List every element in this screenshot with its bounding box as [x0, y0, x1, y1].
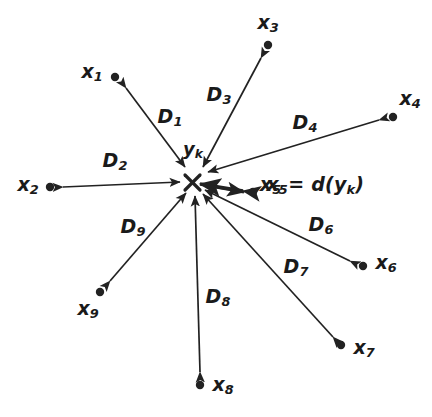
vector-line-d2	[63, 182, 180, 187]
vector-line-d3	[203, 58, 261, 167]
data-point-x8	[196, 381, 204, 389]
point-label-x4: x4	[399, 89, 420, 111]
data-point-x9	[96, 288, 104, 296]
vector-label-d6: D6	[309, 215, 334, 237]
data-point-x7	[337, 341, 345, 349]
centroid-label-yk: yk	[183, 140, 203, 160]
vector-diagram-figure: x1x2x3x4x5x6x7x8x9D1D2D3D4D6D7D8D9ykx5 =…	[0, 0, 432, 417]
data-point-x1	[111, 73, 119, 81]
point-label-x9: x9	[77, 299, 98, 321]
vector-label-d3: D3	[207, 85, 232, 107]
point-label-x6: x6	[375, 253, 396, 275]
point-label-x7: x7	[353, 338, 374, 360]
vector-label-d8: D8	[206, 287, 231, 309]
vector-label-d1: D1	[158, 107, 183, 129]
data-point-x5	[249, 188, 257, 196]
data-point-x2	[46, 183, 54, 191]
vector-label-d7: D7	[284, 257, 309, 279]
point-label-x1: x1	[81, 62, 102, 84]
data-point-x6	[359, 262, 367, 270]
point-label-x3: x3	[257, 13, 278, 35]
data-point-x3	[264, 41, 272, 49]
equation-x5-equals-d-yk: x5 = d(yk)	[260, 175, 364, 197]
data-point-x4	[389, 113, 397, 121]
point-label-x2: x2	[17, 175, 38, 197]
vector-label-d9: D9	[121, 217, 146, 239]
vector-label-d2: D2	[103, 151, 128, 173]
center-x-marker	[185, 175, 200, 190]
vector-label-d4: D4	[293, 113, 318, 135]
point-label-x8: x8	[212, 375, 233, 397]
vector-line-d8	[195, 196, 200, 372]
